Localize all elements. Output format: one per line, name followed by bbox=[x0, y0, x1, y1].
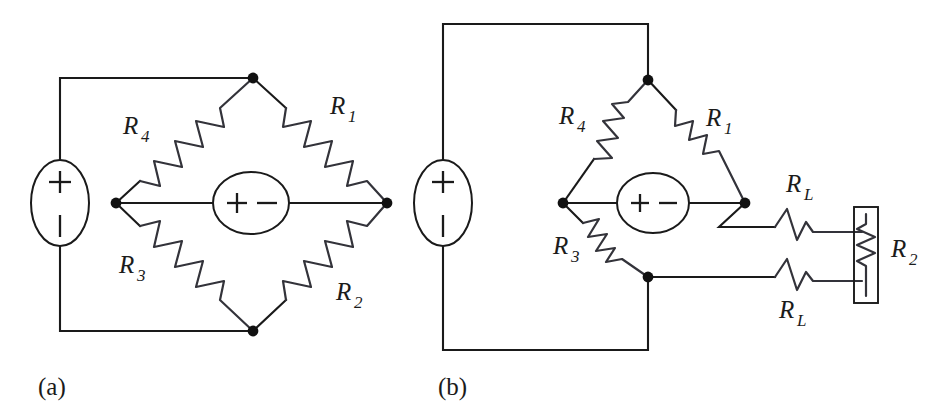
panel-b-node-bottom bbox=[643, 272, 654, 283]
panel-a-outer-loop-wire bbox=[60, 78, 253, 161]
panel-a-arm-wire-r1 bbox=[253, 78, 286, 108]
panel-a-resistor-r3-zigzag bbox=[140, 221, 253, 331]
svg-text:R: R bbox=[558, 102, 574, 129]
svg-text:R: R bbox=[890, 235, 906, 262]
panel-b-caption: (b) bbox=[438, 373, 467, 401]
panel-b-resistor-r2-zigzag bbox=[857, 214, 875, 296]
panel-a-resistor-r1-zigzag bbox=[283, 108, 387, 203]
panel-a-node-right bbox=[382, 198, 393, 209]
svg-text:2: 2 bbox=[354, 293, 363, 312]
panel-b-label-r2: R 2 bbox=[890, 235, 918, 269]
panel-a-node-top bbox=[248, 73, 259, 84]
panel-b-label-r4: R 4 bbox=[558, 102, 586, 136]
panel-a-node-bottom bbox=[248, 326, 259, 337]
panel-b-label-rl-lower: R L bbox=[778, 296, 806, 330]
svg-text:4: 4 bbox=[141, 127, 150, 146]
svg-text:R: R bbox=[785, 170, 801, 197]
panel-a-bridge-detector-source bbox=[213, 172, 289, 234]
figure-canvas: R 4 R 1 R 3 R 2 (a) bbox=[0, 0, 936, 415]
panel-b-label-rl-upper: R L bbox=[785, 170, 813, 204]
panel-a-outer-loop-wire-bottom bbox=[60, 245, 253, 331]
panel-a-node-left bbox=[111, 198, 122, 209]
panel-b-node-left bbox=[558, 198, 569, 209]
panel-a: R 4 R 1 R 3 R 2 (a) bbox=[31, 73, 392, 401]
panel-b-node-right bbox=[740, 198, 751, 209]
panel-b-arm-wire-r4 bbox=[563, 159, 594, 203]
panel-a-label-r3: R 3 bbox=[118, 251, 146, 285]
svg-text:R: R bbox=[778, 296, 794, 323]
svg-text:2: 2 bbox=[909, 250, 918, 269]
svg-text:R: R bbox=[122, 112, 138, 139]
svg-text:R: R bbox=[705, 104, 721, 131]
panel-b-label-r3: R 3 bbox=[552, 232, 580, 266]
panel-b-node-top bbox=[643, 75, 654, 86]
svg-text:R: R bbox=[552, 232, 568, 259]
svg-text:R: R bbox=[335, 278, 351, 305]
panel-b-bridge-detector-source bbox=[617, 173, 689, 233]
svg-text:L: L bbox=[803, 185, 813, 204]
panel-b-arm-wire-r1 bbox=[648, 80, 676, 110]
svg-text:1: 1 bbox=[348, 107, 357, 126]
panel-b-resistor-rl-lower-zigzag bbox=[775, 259, 862, 290]
panel-a-label-r4: R 4 bbox=[122, 112, 150, 146]
svg-text:3: 3 bbox=[570, 247, 580, 266]
panel-b: R 4 R 1 R 3 R L R L R 2 (b) bbox=[414, 24, 918, 401]
panel-b-label-r1: R 1 bbox=[705, 104, 733, 138]
svg-text:L: L bbox=[796, 311, 806, 330]
panel-a-label-r1: R 1 bbox=[329, 92, 357, 126]
panel-a-resistor-r4-zigzag bbox=[140, 78, 253, 186]
panel-a-resistor-r2-zigzag bbox=[283, 203, 387, 300]
svg-text:3: 3 bbox=[136, 266, 146, 285]
panel-a-caption: (a) bbox=[38, 373, 66, 401]
circuit-figure-svg: R 4 R 1 R 3 R 2 (a) bbox=[0, 0, 936, 415]
svg-text:4: 4 bbox=[577, 117, 586, 136]
panel-b-resistor-rl-upper-zigzag bbox=[775, 209, 862, 240]
panel-b-resistor-r4-zigzag bbox=[594, 80, 648, 159]
panel-b-outer-loop-wire-bottom bbox=[443, 246, 648, 350]
panel-a-arm-wire-r2 bbox=[253, 300, 286, 331]
svg-text:R: R bbox=[329, 92, 345, 119]
panel-a-label-r2: R 2 bbox=[335, 278, 363, 312]
svg-text:1: 1 bbox=[724, 119, 733, 138]
panel-b-outer-loop-wire-top bbox=[443, 24, 648, 161]
svg-text:R: R bbox=[118, 251, 134, 278]
